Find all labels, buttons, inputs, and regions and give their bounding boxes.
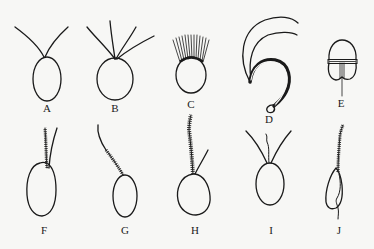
smooth-flagellum — [49, 128, 57, 168]
smooth-flagellum — [195, 150, 208, 174]
panel-label: F — [41, 224, 47, 236]
panel-e: E — [328, 40, 357, 109]
flagellum-base — [98, 125, 106, 150]
panel-label: B — [111, 102, 118, 114]
flagellum — [271, 131, 291, 163]
trailing-flagellum — [336, 174, 340, 219]
panel-j: J — [326, 125, 343, 236]
cell-body — [27, 162, 56, 216]
cell-body — [97, 58, 133, 100]
cell-body — [176, 57, 206, 93]
cell-body — [326, 168, 342, 209]
flagellum — [116, 27, 136, 59]
panel-label: E — [338, 97, 345, 109]
panel-f: F — [27, 128, 57, 236]
panel-b: B — [87, 21, 154, 114]
panel-label: D — [265, 113, 273, 125]
flagellum — [246, 131, 267, 163]
flagella-types-diagram: A B C — [0, 0, 374, 249]
panel-h: H — [178, 115, 211, 236]
flagella-tuft — [173, 35, 209, 62]
panel-label: G — [121, 224, 129, 236]
panel-label: C — [187, 98, 194, 110]
panel-label: H — [191, 224, 199, 236]
panel-label: I — [269, 224, 273, 236]
cell-body — [33, 57, 61, 101]
panel-label: J — [337, 224, 342, 236]
panel-d: D — [243, 17, 298, 125]
panel-label: A — [43, 102, 51, 114]
cell-body — [113, 175, 137, 217]
panel-i: I — [246, 131, 291, 236]
epicone — [329, 40, 356, 60]
panel-c: C — [173, 35, 209, 110]
short-flagellum — [266, 134, 269, 163]
flagellum — [15, 27, 44, 57]
flagellum — [45, 27, 68, 57]
cell-body — [256, 163, 284, 205]
cell-body — [178, 174, 211, 215]
panel-g: G — [98, 125, 137, 236]
panel-a: A — [15, 27, 68, 114]
